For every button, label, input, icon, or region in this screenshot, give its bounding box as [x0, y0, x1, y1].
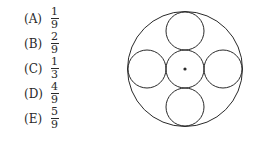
top-small-circle — [166, 12, 204, 50]
center-dot — [183, 67, 186, 70]
bottom-small-circle — [166, 88, 204, 126]
right-small-circle — [204, 50, 242, 88]
circles-figure — [0, 0, 261, 148]
left-small-circle — [128, 50, 166, 88]
